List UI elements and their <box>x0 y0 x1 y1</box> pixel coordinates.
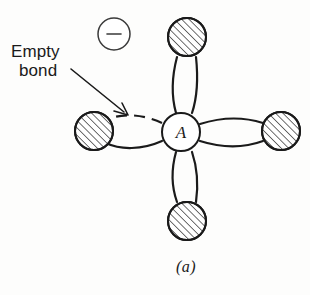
empty-bond-label-line2: bond <box>19 61 57 80</box>
figure-caption: (a) <box>176 258 196 276</box>
bond-center-right <box>200 119 263 147</box>
empty-bond-dashed-line <box>111 115 162 123</box>
bond-center-top <box>173 57 197 113</box>
bond-center-bottom <box>173 152 197 202</box>
atom-bottom <box>166 200 208 242</box>
atom-right <box>260 110 302 152</box>
bond-center-left <box>106 115 162 148</box>
atom-top <box>166 16 208 58</box>
atom-left <box>73 110 115 152</box>
atom-center-label: A <box>175 123 187 142</box>
empty-bond-label-line1: Empty <box>11 42 60 61</box>
figure-container: A Empty bond (a) <box>0 0 310 295</box>
annotation-arrow <box>71 69 128 115</box>
atom-center: A <box>162 113 200 151</box>
negative-charge-symbol <box>98 18 130 50</box>
